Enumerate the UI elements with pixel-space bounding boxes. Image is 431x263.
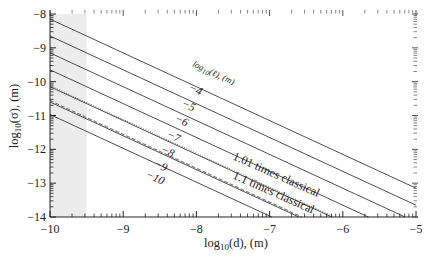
y-axis-title: log10(σ), (m)	[7, 84, 23, 148]
curve-label: −8	[159, 143, 176, 160]
y-tick-label: −13	[27, 176, 46, 190]
x-tick-label: −6	[336, 222, 349, 236]
x-tick-label: −10	[41, 222, 60, 236]
y-tick-labels: −14−13−12−11−10−9−8	[27, 7, 46, 224]
x-axis-title: log10(d), (m)	[204, 236, 268, 252]
y-tick-label: −8	[33, 7, 46, 21]
y-tick-label: −12	[27, 142, 46, 156]
curve-labels: −4−5−6−7−8−9−10	[144, 81, 204, 187]
y-tick-label: −9	[33, 41, 46, 55]
curve-label: −5	[180, 97, 197, 114]
series-lines	[50, 19, 416, 217]
x-tick-label: −5	[410, 222, 423, 236]
curve-label: −6	[173, 112, 190, 129]
x-tick-label: −8	[190, 222, 203, 236]
chart-container: −10−9−8−7−6−5 −14−13−12−11−10−9−8 log10(…	[0, 0, 431, 263]
chart-svg: −10−9−8−7−6−5 −14−13−12−11−10−9−8 log10(…	[0, 0, 431, 263]
y-tick-label: −14	[27, 210, 46, 224]
axes	[50, 10, 418, 217]
series-line	[50, 70, 368, 217]
x-tick-label: −9	[117, 222, 130, 236]
x-tick-labels: −10−9−8−7−6−5	[41, 222, 423, 236]
series-line	[50, 19, 416, 188]
x-tick-label: −7	[263, 222, 276, 236]
y-tick-label: −11	[28, 109, 46, 123]
y-tick-label: −10	[27, 75, 46, 89]
